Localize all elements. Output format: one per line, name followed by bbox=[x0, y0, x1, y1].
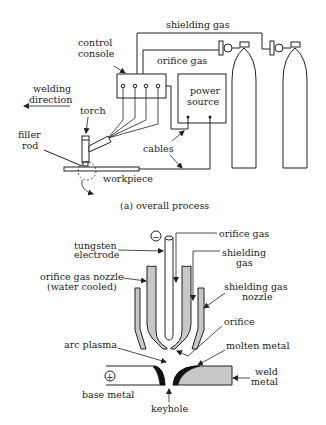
label-base-metal: base metal bbox=[82, 389, 134, 400]
label-orifice-gas-detail: orifice gas bbox=[219, 228, 269, 239]
weld-metal bbox=[173, 366, 232, 385]
gas-cylinder-1 bbox=[232, 42, 256, 168]
label-control: control bbox=[78, 37, 112, 48]
label-power: power bbox=[190, 85, 221, 96]
label-console: console bbox=[78, 48, 115, 59]
torch bbox=[82, 136, 111, 166]
label-orifice: orifice bbox=[224, 316, 255, 327]
label-direction: direction bbox=[29, 94, 72, 105]
caption-overall-process: (a) overall process bbox=[120, 200, 209, 211]
label-nozzle: nozzle bbox=[242, 291, 273, 302]
label-molten-metal: molten metal bbox=[226, 340, 290, 351]
label-water-cooled: (water cooled) bbox=[47, 281, 117, 292]
tungsten-electrode bbox=[165, 236, 173, 340]
label-arc-plasma: arc plasma bbox=[64, 339, 117, 350]
label-torch: torch bbox=[80, 105, 106, 116]
gas-cylinder-2 bbox=[283, 42, 307, 168]
plasma-arc-welding-diagram: shielding gas orifice gas bbox=[0, 0, 326, 425]
label-welding: welding bbox=[33, 83, 71, 94]
regulator-1 bbox=[219, 41, 240, 55]
label-metal: metal bbox=[251, 376, 278, 387]
control-console bbox=[117, 74, 166, 98]
plus-symbol: + bbox=[106, 372, 114, 382]
label-orifice-gas: orifice gas bbox=[157, 55, 207, 66]
regulator-2 bbox=[270, 41, 291, 55]
filler-rod bbox=[44, 150, 82, 166]
torch-detail-diagram: − orifice gas tungsten electrode shieldi… bbox=[40, 228, 290, 414]
label-rod: rod bbox=[22, 140, 38, 151]
label-keyhole: keyhole bbox=[151, 403, 189, 414]
label-workpiece: workpiece bbox=[103, 173, 153, 184]
label-cables: cables bbox=[143, 143, 174, 154]
label-shielding-gas: shielding gas bbox=[166, 19, 230, 30]
label-gas: gas bbox=[236, 257, 253, 268]
label-source: source bbox=[187, 96, 220, 107]
minus-symbol: − bbox=[152, 232, 160, 242]
svg-text:electrode: electrode bbox=[74, 249, 120, 260]
label-filler: filler bbox=[18, 129, 41, 140]
workpiece bbox=[64, 167, 139, 171]
overall-process-diagram: shielding gas orifice gas bbox=[18, 19, 307, 211]
